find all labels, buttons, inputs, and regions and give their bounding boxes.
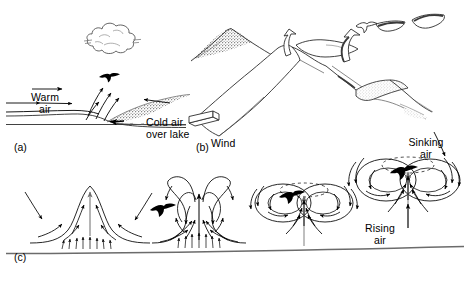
bird-panel-b-icon xyxy=(356,22,377,33)
frontal-lift-streamlines xyxy=(86,88,119,121)
bird-panel-c-stage3-icon xyxy=(279,191,305,204)
main-ridge-windward-face xyxy=(196,45,300,136)
cumulus-cloud-icon xyxy=(84,23,141,53)
bird-panel-c-stage2-icon xyxy=(150,204,176,217)
sinking-air-label-text: Sinking air xyxy=(398,137,454,160)
panel-label-a: (a) xyxy=(14,141,27,153)
warm-air-label-text: Warm air xyxy=(16,92,74,115)
sinking-air-label: Sinking air xyxy=(398,114,454,183)
warm-air-label: Warm air xyxy=(16,69,74,138)
thermal-stage-3 xyxy=(251,183,358,246)
panel-label-c: (c) xyxy=(14,251,26,263)
rising-air-label-text: Rising air xyxy=(353,223,407,246)
thermal-stage-1 xyxy=(25,186,152,249)
bird-panel-a-icon xyxy=(99,73,120,83)
wind-label-text: Wind xyxy=(211,137,235,149)
thermal-stage-2 xyxy=(150,177,246,248)
lower-ridge-flank xyxy=(356,80,408,100)
rising-air-label: Rising air xyxy=(353,200,407,269)
figure-soaring-conditions: Warm air Cold air over lake Wind Sinking… xyxy=(0,0,470,283)
panel-label-b: (b) xyxy=(196,141,209,153)
